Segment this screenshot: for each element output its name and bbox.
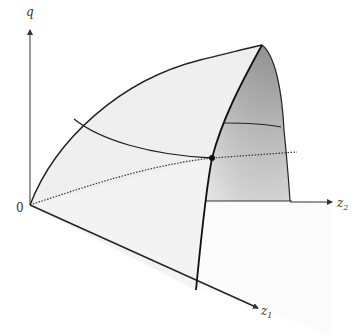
origin-label: 0 [16, 201, 24, 215]
q-axis-label: q [26, 5, 34, 19]
marked-point [209, 155, 215, 161]
diagram-canvas: q 0 z2 z1 [0, 0, 362, 336]
z2-axis-label: z2 [336, 196, 348, 212]
z2-label-subscript: 2 [342, 203, 348, 212]
z1-label-subscript: 1 [267, 311, 272, 320]
